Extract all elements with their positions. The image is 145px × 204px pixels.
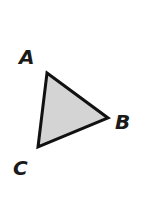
vertex-label-b: B: [115, 110, 130, 134]
triangle-abc: [38, 73, 108, 147]
vertex-label-c: C: [13, 156, 28, 180]
vertex-label-a: A: [17, 45, 34, 69]
triangle-diagram: A B C: [0, 0, 145, 204]
